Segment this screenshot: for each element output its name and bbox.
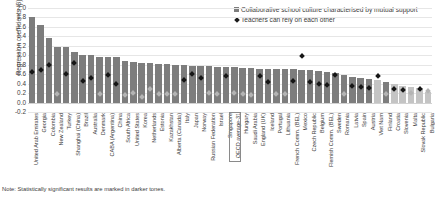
x-label-slot: Brazil — [79, 113, 87, 177]
x-label-slot: Lithuania — [281, 113, 289, 177]
x-label-slot: Czech Republic — [306, 113, 314, 177]
bar — [113, 57, 120, 102]
bar-slot — [163, 8, 171, 112]
bar — [341, 75, 348, 102]
bar-slot — [356, 8, 364, 112]
plot-area — [28, 8, 432, 112]
bar — [273, 69, 280, 103]
y-axis-tick: 0.2 — [17, 90, 26, 96]
x-label-slot: Colombia — [45, 113, 53, 177]
bar-slot — [348, 8, 356, 112]
bar-slot — [129, 8, 137, 112]
x-label-slot: Saudi Arabia — [247, 113, 255, 177]
x-label-slot: Viet Nam — [373, 113, 381, 177]
bar-slot — [62, 8, 70, 112]
bar-slot — [188, 8, 196, 112]
bar — [214, 67, 221, 103]
bar-series — [28, 8, 432, 112]
x-label-slot: Latvia — [348, 113, 356, 177]
y-axis-tick: 1.8 — [17, 14, 26, 20]
x-label-slot: Shanghai (China) — [70, 113, 78, 177]
bar-slot — [171, 8, 179, 112]
x-label-slot: China — [112, 113, 120, 177]
bar-slot — [424, 8, 432, 112]
x-label-slot: United Arab Emirates — [28, 113, 36, 177]
bar-slot — [180, 8, 188, 112]
bar — [307, 70, 314, 102]
bar-slot — [239, 8, 247, 112]
x-label-slot: United States — [129, 113, 137, 177]
bar-slot — [399, 8, 407, 112]
bar — [147, 63, 154, 103]
x-label-slot: Portugal — [272, 113, 280, 177]
bar-slot — [137, 8, 145, 112]
bar — [105, 57, 112, 102]
x-label-slot: Russian Federation — [205, 113, 213, 177]
bar — [248, 68, 255, 103]
y-axis-tick: 0.6 — [17, 71, 26, 77]
bar-slot — [264, 8, 272, 112]
bar-slot — [222, 8, 230, 112]
x-axis-labels: United Arab EmiratesGeorgiaColombiaNew Z… — [28, 113, 432, 177]
bar-slot — [36, 8, 44, 112]
x-label-slot: Slovenia — [399, 113, 407, 177]
bar-slot — [53, 8, 61, 112]
bar — [155, 64, 162, 103]
x-label-slot: Croatia — [390, 113, 398, 177]
x-label-slot: Georgia — [36, 113, 44, 177]
x-label-slot: Denmark — [95, 113, 103, 177]
bar-slot — [289, 8, 297, 112]
x-label-slot: Korea — [137, 113, 145, 177]
chart-note: Note: Statistically significant results … — [2, 186, 165, 192]
bar-slot — [390, 8, 398, 112]
bar-slot — [314, 8, 322, 112]
bar — [315, 71, 322, 102]
x-label-slot: French Comm. (BEL) — [289, 113, 297, 177]
bar — [231, 67, 238, 102]
x-label-slot: Hungary — [239, 113, 247, 177]
bar — [46, 38, 53, 103]
bar-slot — [45, 8, 53, 112]
bar-slot — [255, 8, 263, 112]
x-label-slot: Spain — [356, 113, 364, 177]
bar-slot — [415, 8, 423, 112]
bar — [374, 80, 381, 102]
x-label-slot: CABA (Argentina) — [104, 113, 112, 177]
x-label-slot: Norway — [196, 113, 204, 177]
bar — [29, 17, 36, 103]
x-label-slot: Netherlands — [146, 113, 154, 177]
bar — [290, 69, 297, 102]
chart-container: Collaborative school culture characteris… — [0, 0, 435, 200]
bar-slot — [382, 8, 390, 112]
bar — [206, 66, 213, 102]
bar-slot — [365, 8, 373, 112]
bar — [164, 64, 171, 102]
x-label-slot: Romania — [340, 113, 348, 177]
bar-slot — [373, 8, 381, 112]
diamond-marker — [299, 53, 304, 58]
bar-slot — [95, 8, 103, 112]
bar — [197, 66, 204, 103]
x-label-slot: Israel — [213, 113, 221, 177]
bar — [181, 65, 188, 102]
x-label-slot: Iceland — [264, 113, 272, 177]
x-label-slot: Belgium — [314, 113, 322, 177]
bar-slot — [205, 8, 213, 112]
y-axis-tick: -0.2 — [15, 109, 26, 115]
x-label-slot: Japan — [188, 113, 196, 177]
y-axis-tick: 0.0 — [17, 99, 26, 105]
x-label-slot: Slovak Republic — [415, 113, 423, 177]
bar — [349, 77, 356, 103]
bar — [357, 78, 364, 103]
x-label-slot: Sweden — [331, 113, 339, 177]
bar-slot — [272, 8, 280, 112]
x-label-slot: Finland — [382, 113, 390, 177]
x-label-slot: New Zealand — [53, 113, 61, 177]
bar — [324, 72, 331, 103]
y-axis-tick: 2.0 — [17, 5, 26, 11]
bar-slot — [28, 8, 36, 112]
bar-slot — [70, 8, 78, 112]
bar-slot — [154, 8, 162, 112]
x-label-slot: Estonia — [154, 113, 162, 177]
x-axis-label: Bulgaria — [430, 113, 435, 133]
